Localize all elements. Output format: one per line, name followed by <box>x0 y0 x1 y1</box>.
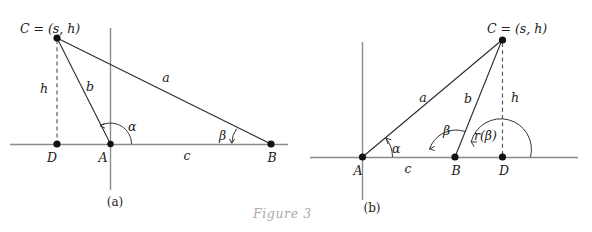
panel-a-point-label-B: B <box>266 150 276 165</box>
figure-3-svg: C = (s, h) D A B h b a c α β (a) <box>0 0 592 232</box>
panel-a-vertex-C-coordinate-label: C = (s, h) <box>20 21 80 36</box>
panel-b-vertex-C-coordinate-label: C = (s, h) <box>487 21 547 36</box>
panel-a-point-label-A: A <box>97 150 107 165</box>
panel-b-side-label-c: c <box>404 161 411 176</box>
panel-b-angle-label-r-beta: r(β) <box>474 128 497 143</box>
panel-a-side-label-a: a <box>162 70 169 85</box>
panel-b: C = (s, h) A B D a b h c α β r(β) (b) <box>310 21 578 215</box>
panel-b-side-label-a: a <box>419 90 426 105</box>
panel-b-angle-label-alpha: α <box>392 141 401 156</box>
panel-a-side-label-b: b <box>86 79 94 94</box>
panel-b-point-A <box>359 153 366 160</box>
panel-b-point-label-B: B <box>450 163 460 178</box>
panel-a-beta-arc <box>232 129 237 143</box>
panel-a-caption: (a) <box>107 195 124 209</box>
panel-b-point-label-A: A <box>352 163 362 178</box>
panel-a-angle-label-beta: β <box>218 128 226 143</box>
panel-a-side-label-c: c <box>183 148 190 163</box>
panel-a-point-D <box>53 140 60 147</box>
panel-b-point-C <box>499 36 506 43</box>
panel-b-caption: (b) <box>363 201 380 215</box>
figure-3-container: C = (s, h) D A B h b a c α β (a) <box>0 0 592 232</box>
panel-a: C = (s, h) D A B h b a c α β (a) <box>10 21 288 209</box>
panel-a-point-B <box>267 140 274 147</box>
panel-a-angle-label-alpha: α <box>128 119 137 134</box>
panel-b-side-label-b: b <box>464 91 472 106</box>
figure-caption: Figure 3 <box>252 206 312 221</box>
panel-b-point-B <box>451 153 458 160</box>
panel-b-point-D <box>499 153 506 160</box>
panel-b-point-label-D: D <box>498 163 509 178</box>
panel-b-height-label-h: h <box>511 90 519 105</box>
panel-a-side-b-line <box>57 38 111 144</box>
panel-a-height-label-h: h <box>40 81 48 96</box>
panel-a-point-label-D: D <box>46 150 57 165</box>
panel-a-point-A <box>107 141 113 147</box>
panel-b-angle-label-beta: β <box>442 123 450 138</box>
